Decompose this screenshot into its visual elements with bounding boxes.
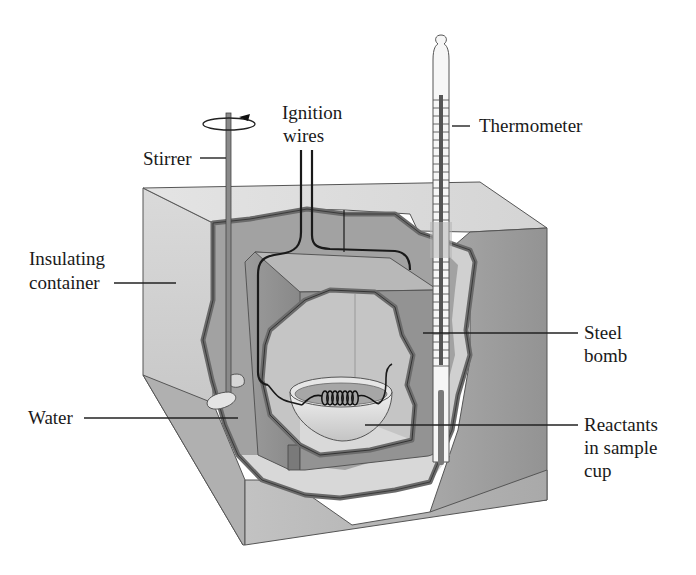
label-reactants-line2: in sample xyxy=(584,437,657,458)
bomb-calorimeter-diagram: Ignition wires Stirrer Thermometer Insul… xyxy=(0,0,696,575)
stirrer-paddle-back xyxy=(231,374,244,387)
label-thermometer: Thermometer xyxy=(479,115,583,136)
label-reactants-line1: Reactants xyxy=(584,414,658,435)
label-insulating-container-line1: Insulating xyxy=(29,248,105,269)
thermometer xyxy=(430,35,452,465)
label-water: Water xyxy=(28,407,74,428)
label-reactants-line3: cup xyxy=(584,460,611,481)
cup-inside xyxy=(295,383,387,405)
label-steel-bomb-line2: bomb xyxy=(584,345,627,366)
thermometer-bulb xyxy=(438,390,444,465)
bomb-foot xyxy=(288,445,300,470)
label-insulating-container-line2: container xyxy=(29,272,100,293)
label-ignition-wires-line1: Ignition xyxy=(282,102,343,123)
thermometer-lid-overlap xyxy=(430,222,452,258)
label-stirrer: Stirrer xyxy=(143,148,192,169)
stirrer-shaft xyxy=(226,113,231,398)
label-steel-bomb-line1: Steel xyxy=(584,322,622,343)
label-ignition-wires-line2: wires xyxy=(283,125,324,146)
